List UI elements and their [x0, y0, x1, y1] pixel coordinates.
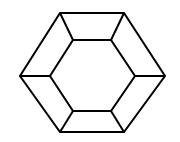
connecting-edge: [111, 13, 124, 40]
inner-hexagon: [50, 40, 135, 111]
outer-hexagon: [20, 13, 165, 132]
connecting-edge: [111, 111, 124, 132]
hexagon-frustum-diagram: [0, 0, 180, 142]
diagram-canvas: [0, 0, 180, 142]
connecting-edge: [60, 13, 73, 40]
connecting-edges: [20, 13, 165, 132]
connecting-edge: [60, 111, 73, 132]
